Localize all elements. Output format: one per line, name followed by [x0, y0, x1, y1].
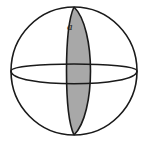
sphere-diagram-svg [0, 0, 147, 143]
lune-angle-label: a [67, 21, 73, 32]
spherical-lune-figure: a [0, 0, 147, 143]
